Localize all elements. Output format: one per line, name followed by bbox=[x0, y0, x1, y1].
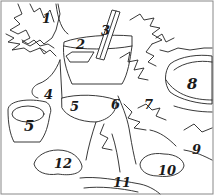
region-label-2: 2 bbox=[76, 38, 85, 51]
region-label-6: 6 bbox=[111, 98, 120, 111]
coloring-page: 1 2 3 4 5 6 7 8 5 9 12 10 11 bbox=[0, 0, 214, 195]
region-label-8: 8 bbox=[187, 77, 197, 92]
region-label-10: 10 bbox=[158, 164, 176, 177]
region-label-7: 7 bbox=[144, 98, 153, 111]
region-label-1: 1 bbox=[42, 12, 51, 25]
region-label-5b: 5 bbox=[24, 119, 34, 134]
region-label-3: 3 bbox=[101, 24, 110, 37]
region-label-12: 12 bbox=[54, 157, 72, 170]
region-label-4: 4 bbox=[44, 88, 53, 101]
region-label-11: 11 bbox=[113, 176, 131, 189]
region-label-9: 9 bbox=[192, 143, 201, 156]
region-label-5a: 5 bbox=[70, 100, 79, 113]
